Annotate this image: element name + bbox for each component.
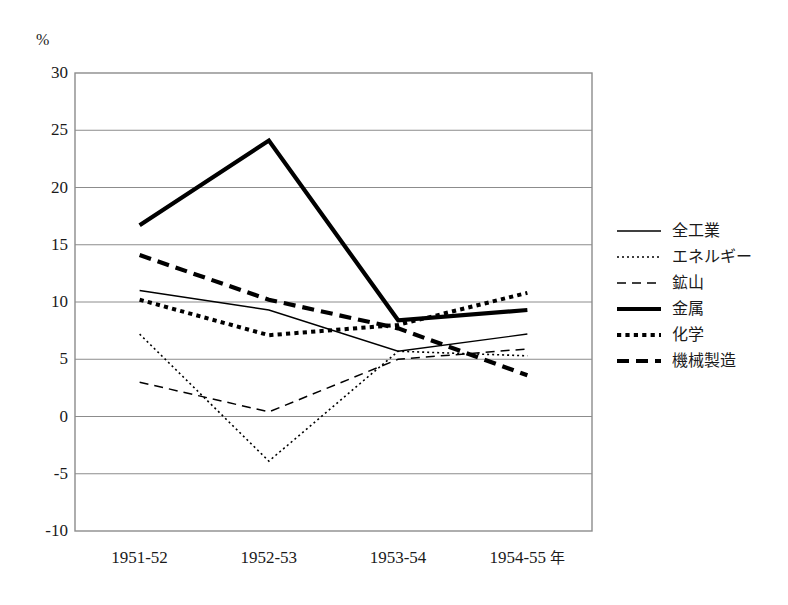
legend-item-4: 化学 [617, 322, 782, 348]
chart-legend: 全工業エネルギー鉱山金属化学機械製造 [617, 218, 782, 374]
legend-label: エネルギー [672, 249, 752, 265]
legend-key-icon [617, 250, 661, 264]
legend-key-icon [617, 302, 661, 316]
legend-key-icon [617, 328, 661, 342]
legend-item-5: 機械製造 [617, 348, 782, 374]
legend-item-2: 鉱山 [617, 270, 782, 296]
legend-key-icon [617, 354, 661, 368]
legend-item-1: エネルギー [617, 244, 782, 270]
legend-item-3: 金属 [617, 296, 782, 322]
legend-label: 全工業 [672, 223, 720, 239]
legend-label: 鉱山 [672, 275, 704, 291]
legend-label: 機械製造 [672, 353, 736, 369]
legend-key-icon [617, 276, 661, 290]
legend-label: 金属 [672, 301, 704, 317]
legend-label: 化学 [672, 327, 704, 343]
legend-item-0: 全工業 [617, 218, 782, 244]
series-line-2 [140, 349, 528, 412]
series-line-3 [140, 141, 528, 321]
chart-container: % 302520151050-5-10 1951-521952-531953-5… [0, 0, 788, 605]
series-line-0 [140, 291, 528, 352]
legend-key-icon [617, 224, 661, 238]
